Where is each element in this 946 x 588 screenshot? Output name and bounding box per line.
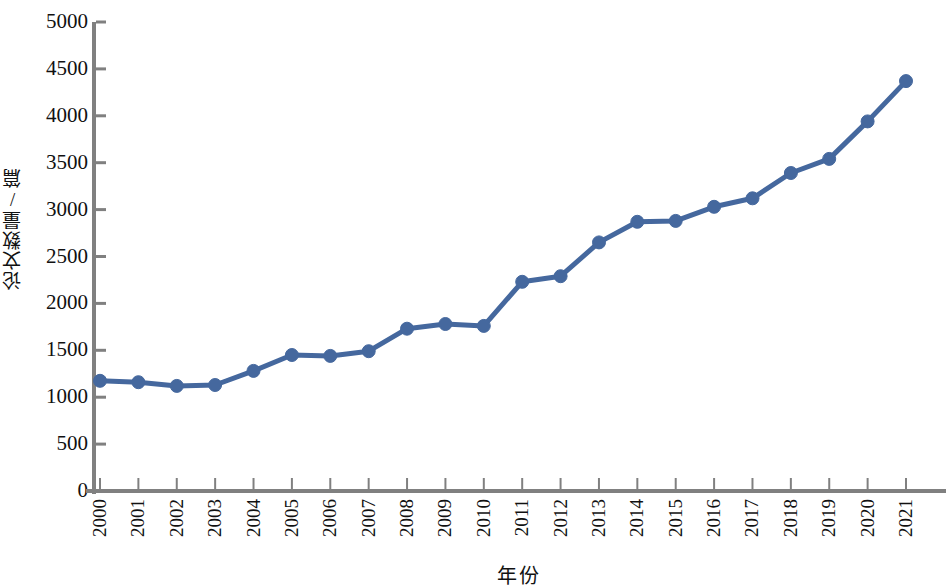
data-point-marker <box>285 349 298 362</box>
data-point-marker <box>170 379 183 392</box>
data-point-marker <box>746 192 759 205</box>
data-point-marker <box>554 270 567 283</box>
data-point-marker <box>861 115 874 128</box>
data-point-marker <box>900 75 913 88</box>
data-point-marker <box>593 236 606 249</box>
data-point-marker <box>784 167 797 180</box>
data-point-marker <box>362 345 375 358</box>
data-point-marker <box>439 318 452 331</box>
data-point-marker <box>209 379 222 392</box>
data-point-marker <box>823 152 836 165</box>
data-point-marker <box>631 215 644 228</box>
data-point-marker <box>132 376 145 389</box>
data-point-marker <box>324 349 337 362</box>
plot-area <box>0 0 946 588</box>
data-point-marker <box>401 322 414 335</box>
data-point-marker <box>94 374 107 387</box>
series-line <box>100 81 906 386</box>
axes <box>86 22 946 494</box>
line-chart: 论文数量/篇 年份 050010001500200025003000350040… <box>0 0 946 588</box>
data-point-marker <box>669 214 682 227</box>
data-point-marker <box>247 364 260 377</box>
data-point-marker <box>516 275 529 288</box>
data-point-marker <box>708 200 721 213</box>
data-point-marker <box>477 319 490 332</box>
data-series <box>94 75 913 393</box>
